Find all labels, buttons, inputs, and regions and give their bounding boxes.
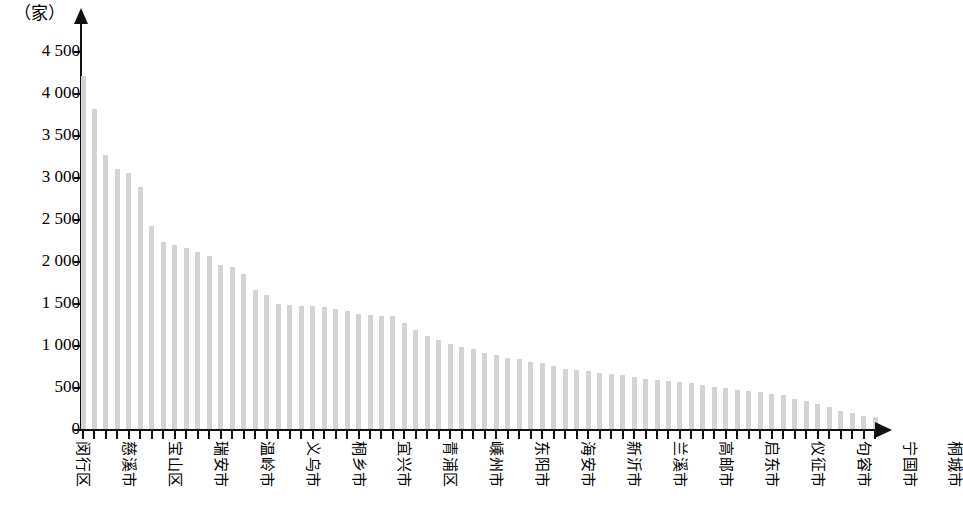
x-axis-tick-mark	[622, 431, 624, 439]
bar	[264, 295, 269, 429]
bar	[563, 369, 568, 429]
x-axis-tick-mark	[300, 431, 302, 439]
x-axis-tick-mark	[403, 431, 405, 439]
x-axis-tick-mark	[484, 431, 486, 439]
x-axis-category-label: 兰溪市	[672, 441, 687, 488]
x-axis-tick-mark	[449, 431, 451, 439]
x-axis-tick-mark	[495, 431, 497, 439]
x-axis-tick-mark	[93, 431, 95, 439]
x-axis-tick-mark	[151, 431, 153, 439]
x-axis-tick-mark	[713, 431, 715, 439]
bar	[517, 359, 522, 429]
bar	[551, 366, 556, 429]
plot-area	[0, 0, 904, 429]
x-axis-category-label: 温岭市	[259, 441, 274, 488]
bar	[161, 242, 166, 429]
x-axis-category-label: 句容市	[856, 441, 871, 488]
bar	[379, 316, 384, 429]
bar	[207, 256, 212, 429]
x-axis-tick-mark	[530, 431, 532, 439]
x-axis-tick-mark	[105, 431, 107, 439]
bar	[195, 252, 200, 429]
x-axis-category-label: 嵊州市	[488, 441, 503, 488]
bar	[746, 391, 751, 429]
bar	[448, 344, 453, 429]
bar	[735, 390, 740, 429]
x-axis-tick-mark	[220, 431, 222, 439]
bar	[138, 187, 143, 429]
bar	[413, 330, 418, 429]
x-axis-tick-mark	[507, 431, 509, 439]
bar	[322, 307, 327, 429]
x-axis-category-label: 宜兴市	[396, 441, 411, 488]
x-axis-tick-mark	[277, 431, 279, 439]
bar	[310, 306, 315, 429]
x-axis-category-label: 启东市	[764, 441, 779, 488]
bar	[758, 392, 763, 429]
bar	[425, 336, 430, 429]
x-axis-tick-mark	[748, 431, 750, 439]
bar	[689, 383, 694, 429]
x-axis-tick-mark	[702, 431, 704, 439]
bar	[436, 340, 441, 429]
x-axis-tick-mark	[266, 431, 268, 439]
bar	[184, 248, 189, 429]
x-axis-tick-mark	[851, 431, 853, 439]
x-axis-tick-mark	[874, 431, 876, 439]
x-axis-tick-mark	[645, 431, 647, 439]
x-axis-tick-mark	[541, 431, 543, 439]
x-axis-tick-mark	[380, 431, 382, 439]
x-axis-tick-mark	[162, 431, 164, 439]
x-axis-category-label: 高邮市	[718, 441, 733, 488]
bar	[149, 226, 154, 429]
x-axis-tick-mark	[243, 431, 245, 439]
x-axis-tick-mark	[736, 431, 738, 439]
x-axis-tick-mark	[690, 431, 692, 439]
bar	[459, 347, 464, 429]
bar	[126, 173, 131, 429]
bar	[402, 323, 407, 429]
x-axis-tick-mark	[518, 431, 520, 439]
x-axis-tick-mark	[323, 431, 325, 439]
x-axis-category-label: 新沂市	[626, 441, 641, 488]
x-axis-tick-mark	[576, 431, 578, 439]
x-axis-tick-mark	[599, 431, 601, 439]
x-axis-category-label: 瑞安市	[213, 441, 228, 488]
bar	[333, 309, 338, 429]
x-axis-tick-mark	[817, 431, 819, 439]
bar	[253, 290, 258, 429]
x-axis-tick-mark	[759, 431, 761, 439]
x-axis-tick-mark	[553, 431, 555, 439]
x-axis-tick-mark	[116, 431, 118, 439]
x-axis-tick-mark	[358, 431, 360, 439]
x-axis-category-label: 闵行区	[75, 441, 90, 488]
x-axis-tick-mark	[828, 431, 830, 439]
x-axis-tick-mark	[208, 431, 210, 439]
x-axis-tick-mark	[392, 431, 394, 439]
bar	[586, 371, 591, 429]
x-axis-tick-mark	[771, 431, 773, 439]
bar	[115, 169, 120, 429]
bar	[723, 388, 728, 429]
x-axis-category-label: 东阳市	[534, 441, 549, 488]
x-axis-category-label: 宁国市	[902, 441, 917, 488]
x-axis-tick-mark	[725, 431, 727, 439]
x-axis-tick-mark	[289, 431, 291, 439]
x-axis-tick-mark	[805, 431, 807, 439]
bar	[103, 155, 108, 429]
bar	[81, 76, 86, 429]
bar	[390, 316, 395, 429]
x-axis-tick-mark	[863, 431, 865, 439]
x-axis-tick-mark	[346, 431, 348, 439]
x-axis-tick-mark	[254, 431, 256, 439]
x-axis-category-label: 义乌市	[305, 441, 320, 488]
x-axis-category-label: 桐城市	[947, 441, 962, 488]
x-axis-tick-mark	[840, 431, 842, 439]
bar	[471, 349, 476, 429]
bar	[850, 413, 855, 429]
x-axis-category-label: 海安市	[580, 441, 595, 488]
bar	[540, 363, 545, 429]
bar	[781, 395, 786, 429]
bar	[494, 355, 499, 429]
x-axis-tick-mark	[438, 431, 440, 439]
